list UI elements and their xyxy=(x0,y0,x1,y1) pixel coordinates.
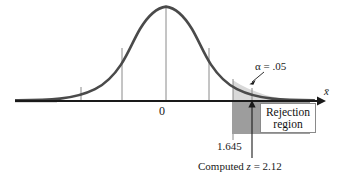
alpha-leader-arrowhead xyxy=(249,80,255,85)
center-label: 0 xyxy=(159,105,165,117)
alpha-leader-line xyxy=(252,72,264,82)
rejection-region-line1: Rejection xyxy=(266,106,310,118)
alpha-label: α = .05 xyxy=(255,61,286,72)
normal-distribution-rejection-region-figure: Rejection region 0 x̄ α = .05 1.645 Comp… xyxy=(0,0,339,179)
rejection-region-callout: Rejection region xyxy=(260,103,316,133)
computed-z-prefix: Computed xyxy=(198,160,247,172)
x-axis-arrowhead xyxy=(317,97,326,106)
critical-value-label: 1.645 xyxy=(217,141,242,152)
computed-z-label: Computed z = 2.12 xyxy=(198,161,282,172)
rejection-region-line2: region xyxy=(273,118,302,130)
x-axis-label: x̄ xyxy=(324,86,329,97)
computed-z-value: = 2.12 xyxy=(251,160,282,172)
figure-canvas xyxy=(0,0,339,179)
